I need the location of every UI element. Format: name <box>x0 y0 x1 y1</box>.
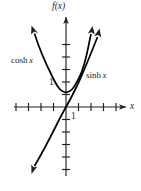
sinh-curve-label: sinhx <box>86 71 107 80</box>
sinh-bottom-arrowhead <box>31 165 37 175</box>
y-axis-tick-label-one: 1 <box>49 78 54 88</box>
cosh-curve-label: coshx <box>11 56 33 65</box>
hyperbolic-functions-figure: f(x) x coshx sinhx 1 1 <box>0 0 141 191</box>
sinh-label-variable: x <box>101 70 107 80</box>
cosh-label-variable: x <box>28 55 34 65</box>
x-axis-tick-label-one: 1 <box>71 112 76 122</box>
y-axis-group <box>62 17 70 176</box>
sinh-top-arrowhead <box>94 29 101 38</box>
x-axis-label: x <box>130 102 134 112</box>
cosh-label-text: cosh <box>11 55 28 65</box>
sinh-label-text: sinh <box>86 70 101 80</box>
cosh-curve <box>35 34 92 93</box>
cosh-left-arrowhead <box>31 26 38 35</box>
y-axis-label: f(x) <box>52 2 65 12</box>
cosh-right-arrowhead <box>88 26 95 34</box>
x-axis-group <box>14 103 126 111</box>
graph-canvas <box>0 0 141 191</box>
